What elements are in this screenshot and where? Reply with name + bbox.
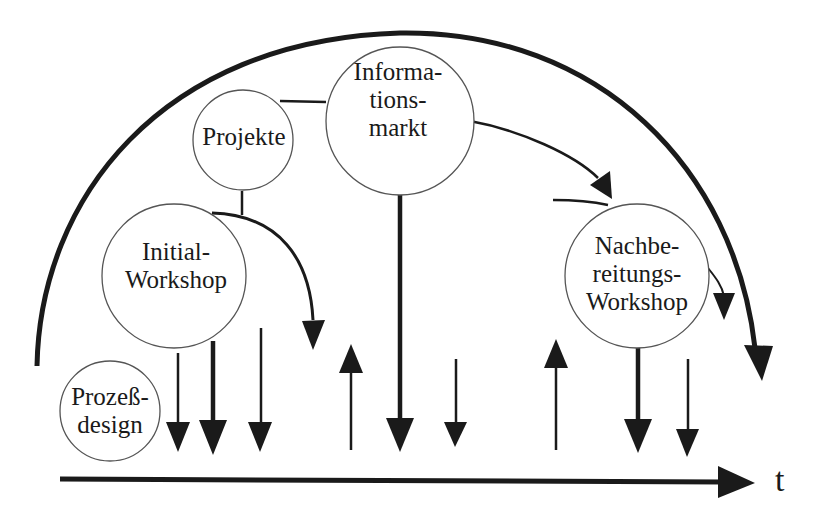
- down-arrow-4-head: [444, 422, 467, 447]
- node-circle-initial-workshop: [102, 204, 246, 348]
- process-timeline-diagram: Prozeß- design Initial- Workshop Projekt…: [0, 0, 821, 523]
- down-arrow-5-head: [676, 429, 699, 457]
- curved-arrow-nachbereitung: [708, 268, 724, 296]
- node-circle-nachbereitungs-workshop: [565, 204, 709, 348]
- down-arrow-nachbereitung-head: [624, 419, 652, 453]
- down-arrow-2-head: [199, 420, 227, 455]
- node-circle-projekte: [193, 90, 293, 190]
- down-arrow-3-head: [248, 422, 272, 452]
- timeline-arrowhead: [718, 466, 755, 498]
- overall-process-arrowhead: [744, 345, 773, 381]
- feed-line-nachbereitung: [553, 200, 608, 205]
- diagram-canvas: [0, 0, 821, 523]
- connector-projekte-informationsmarkt: [280, 101, 326, 102]
- curved-arrow-initial-head: [302, 320, 325, 350]
- up-arrow-2-head: [544, 339, 568, 368]
- up-arrow-1-head: [339, 344, 363, 373]
- down-arrow-informationsmarkt-head: [386, 418, 414, 452]
- down-arrow-1-head: [166, 422, 190, 452]
- curved-arrow-nachbereitung-head: [713, 293, 735, 320]
- time-axis-label: t: [775, 463, 784, 497]
- curved-arrow-informationsmarkt-nachbereitung: [470, 121, 598, 178]
- node-circle-informationsmarkt: [326, 47, 474, 195]
- node-circle-prozessdesign: [60, 361, 160, 461]
- timeline-axis: [60, 479, 722, 482]
